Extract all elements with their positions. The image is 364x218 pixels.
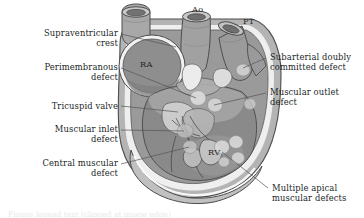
label-supraventricular-crest: Supraventricular crest [10,28,118,48]
apical-defect-marker-4 [219,157,230,167]
label-multiple-apical-muscular-defects: Multiple apical muscular defects [272,183,364,203]
inline-label-aorta: Ao [192,4,203,14]
central-muscular-defect-marker [183,141,197,154]
label-tricuspid-valve: Tricuspid valve [10,101,118,111]
vsd-anatomical-diagram: Supraventricular crest Perimembranous de… [0,0,364,218]
apical-defect-marker-2 [229,136,243,149]
label-muscular-inlet-defect: Muscular inlet defect [10,124,118,144]
inline-label-right-atrium: RA [140,59,153,69]
perimembranous-defect-marker [190,91,206,106]
label-perimembranous-defect: Perimembranous defect [10,62,118,82]
inline-label-pulmonary-trunk: PT [243,16,255,26]
apical-defect-marker-3 [232,152,245,164]
label-muscular-outlet-defect: Muscular outlet defect [270,87,364,107]
clipped-caption: Figure legend text (clipped at image edg… [8,210,208,217]
apical-defect-marker-5 [244,99,256,110]
inline-label-right-ventricle: RV [208,147,220,157]
label-subarterial-doubly-committed-defect: Subarterial doubly committed defect [270,52,364,72]
label-central-muscular-defect: Central muscular defect [10,158,118,178]
